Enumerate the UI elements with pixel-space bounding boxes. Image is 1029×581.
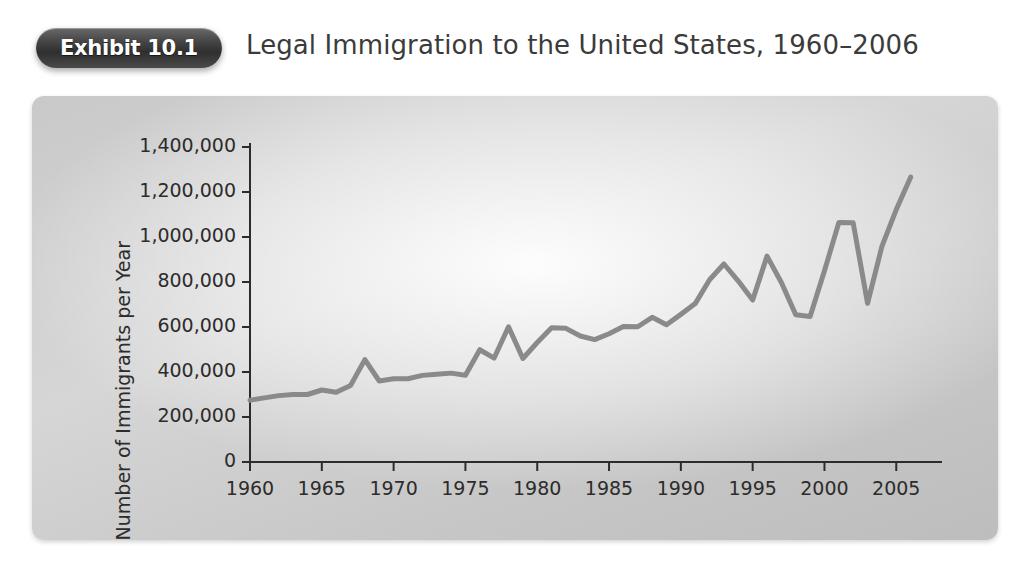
- data-series-line: [250, 177, 911, 400]
- chart-panel: 0200,000400,000600,000800,0001,000,0001,…: [32, 96, 998, 540]
- y-axis-title: Number of Immigrants per Year: [112, 241, 134, 540]
- chart-svg: [32, 96, 998, 540]
- exhibit-badge-label: Exhibit 10.1: [60, 36, 198, 60]
- exhibit-badge: Exhibit 10.1: [36, 28, 222, 68]
- exhibit-header: Exhibit 10.1 Legal Immigration to the Un…: [0, 0, 1029, 95]
- line-chart-plot: 0200,000400,000600,000800,0001,000,0001,…: [32, 96, 998, 540]
- page-title: Legal Immigration to the United States, …: [246, 30, 919, 60]
